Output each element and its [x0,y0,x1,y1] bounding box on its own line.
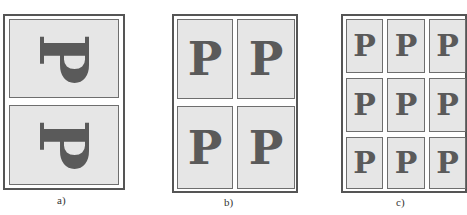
page-c-3: P [429,19,466,73]
glyph-p: P [353,148,376,178]
glyph-p: P [353,90,376,120]
page-b-2: P [237,19,295,99]
page-b-4: P [237,106,295,189]
page-c-7: P [346,137,383,189]
sheet-c: P P P P P P P P P [341,14,467,193]
page-c-6: P [429,78,466,132]
page-c-2: P [387,19,425,73]
glyph-p: P [188,125,223,171]
glyph-p: P [188,36,223,82]
page-c-8: P [387,137,425,189]
glyph-p: P [249,36,284,82]
sheet-a: P P [3,14,125,190]
sheet-b: P P P P [172,14,298,193]
glyph-p: P [395,31,418,61]
glyph-p: P [249,125,284,171]
glyph-p: P [353,31,376,61]
caption-b: b) [224,196,233,208]
glyph-p-rotated: P [30,33,98,84]
page-b-1: P [177,19,233,99]
page-c-9: P [429,137,466,189]
page-c-1: P [346,19,383,73]
caption-c: c) [396,196,405,208]
glyph-p: P [436,31,459,61]
page-b-3: P [177,106,233,189]
glyph-p: P [436,90,459,120]
caption-a: a) [57,194,66,206]
page-c-5: P [387,78,425,132]
page-a-1: P [9,19,119,98]
page-a-2: P [9,105,119,185]
glyph-p: P [395,148,418,178]
page-c-4: P [346,78,383,132]
glyph-p: P [395,90,418,120]
glyph-p-rotated: P [30,119,98,170]
glyph-p: P [436,148,459,178]
